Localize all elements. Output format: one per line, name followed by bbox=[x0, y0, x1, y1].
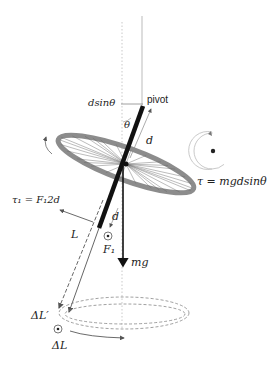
precession-direction-arrow bbox=[70, 331, 124, 338]
pivot-label: pivot bbox=[147, 95, 168, 105]
precession-path-outer bbox=[59, 297, 189, 329]
torque-label: τ = mgdsinθ bbox=[197, 176, 267, 187]
L-prime-vector-dashed bbox=[59, 200, 103, 308]
precession-path-inner bbox=[65, 304, 185, 324]
mg-label: mg bbox=[131, 257, 148, 268]
d-lower-label: d bbox=[112, 211, 119, 222]
d-upper-label: d bbox=[146, 135, 153, 146]
theta-label: θ bbox=[124, 120, 130, 130]
tau1-arrow bbox=[60, 210, 93, 222]
L-label: L bbox=[71, 229, 78, 240]
deltaL-label: ΔL bbox=[52, 340, 67, 351]
deltaL-prime-label: ΔL′ bbox=[31, 310, 49, 321]
torque-dot bbox=[211, 149, 215, 153]
F1-label: F₁ bbox=[103, 244, 115, 255]
dsintheta-label: dsinθ bbox=[88, 98, 115, 108]
wheel-rotation-arrow bbox=[45, 137, 52, 154]
tau1-label: τ₁ = F₁2d bbox=[12, 195, 60, 205]
